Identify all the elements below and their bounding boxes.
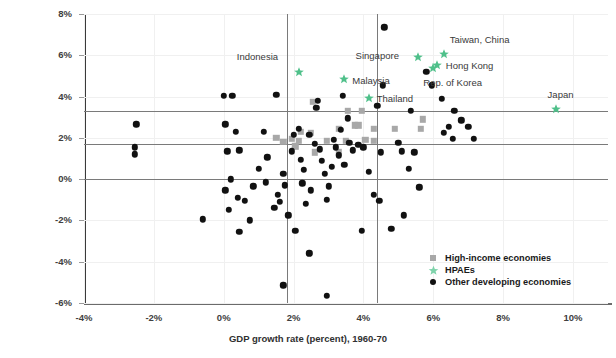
gridline-vertical bbox=[154, 14, 155, 303]
data-point-circle bbox=[222, 187, 228, 193]
data-point-circle bbox=[236, 229, 242, 235]
point-label: Singapore bbox=[356, 51, 399, 61]
data-point-circle bbox=[296, 125, 302, 131]
data-point-circle bbox=[388, 225, 394, 231]
legend-item-hpaes: HPAEs bbox=[426, 264, 571, 276]
point-label: Taiwan, China bbox=[450, 35, 510, 45]
point-label: Japan bbox=[548, 90, 574, 100]
gridline-horizontal bbox=[84, 14, 608, 15]
data-point-circle bbox=[292, 228, 298, 234]
data-point-circle bbox=[325, 183, 331, 189]
data-point-square bbox=[355, 122, 361, 128]
gridline-horizontal bbox=[84, 303, 608, 304]
data-point-circle bbox=[400, 212, 406, 218]
point-label: Rep. of Korea bbox=[423, 78, 482, 88]
data-point-circle bbox=[376, 198, 382, 204]
data-point-star bbox=[339, 74, 350, 85]
data-point-circle bbox=[360, 144, 366, 150]
x-tick-label: 0% bbox=[217, 313, 231, 323]
data-point-circle bbox=[303, 201, 309, 207]
data-point-circle bbox=[374, 103, 380, 109]
x-tick-label: -4% bbox=[76, 313, 93, 323]
x-tick-label: -2% bbox=[145, 313, 162, 323]
data-point-circle bbox=[306, 250, 312, 256]
gridline-vertical bbox=[573, 14, 574, 303]
data-point-circle bbox=[306, 132, 312, 138]
data-point-square bbox=[392, 125, 398, 131]
data-point-circle bbox=[271, 205, 277, 211]
data-point-circle bbox=[458, 117, 464, 123]
data-point-circle bbox=[236, 147, 242, 153]
data-point-circle bbox=[318, 157, 324, 163]
data-point-circle bbox=[470, 136, 476, 142]
data-point-circle bbox=[233, 128, 239, 134]
data-point-circle bbox=[378, 149, 384, 155]
data-point-circle bbox=[399, 148, 405, 154]
data-point-square bbox=[371, 125, 377, 131]
legend-label: Other developing economies bbox=[445, 277, 571, 287]
data-point-circle bbox=[221, 92, 227, 98]
data-point-star bbox=[550, 103, 561, 114]
scatter-chart: 8%6%4%2%0%-2%-4%-6% -4%-2%0%2%4%6%8%10% … bbox=[0, 0, 616, 358]
data-point-circle bbox=[381, 24, 387, 30]
data-point-square bbox=[280, 139, 286, 145]
data-point-circle bbox=[406, 166, 412, 172]
data-point-circle bbox=[423, 69, 429, 75]
data-point-circle bbox=[313, 105, 319, 111]
data-point-square bbox=[324, 138, 330, 144]
gridline-horizontal bbox=[84, 55, 608, 56]
data-point-circle bbox=[449, 136, 455, 142]
data-point-circle bbox=[255, 166, 261, 172]
data-point-star bbox=[363, 92, 374, 103]
chart-legend: High-income economies HPAEs Other develo… bbox=[426, 252, 571, 288]
gridline-vertical bbox=[84, 14, 85, 303]
data-point-circle bbox=[224, 148, 230, 154]
data-point-circle bbox=[366, 169, 372, 175]
x-tick-label: 10% bbox=[564, 313, 583, 323]
data-point-circle bbox=[359, 228, 365, 234]
point-label: Indonesia bbox=[237, 52, 278, 62]
data-point-circle bbox=[315, 97, 321, 103]
data-point-circle bbox=[346, 140, 352, 146]
data-point-circle bbox=[439, 95, 445, 101]
data-point-circle bbox=[416, 184, 422, 190]
data-point-circle bbox=[275, 191, 281, 197]
star-icon bbox=[426, 265, 440, 276]
data-point-circle bbox=[332, 144, 338, 150]
data-point-circle bbox=[131, 144, 137, 150]
data-point-circle bbox=[324, 197, 330, 203]
point-label: Hong Kong bbox=[446, 61, 494, 71]
data-point-square bbox=[420, 116, 426, 122]
data-point-circle bbox=[441, 129, 447, 135]
data-point-circle bbox=[133, 121, 139, 127]
data-point-circle bbox=[308, 187, 314, 193]
data-point-circle bbox=[290, 132, 296, 138]
data-point-circle bbox=[324, 293, 330, 299]
legend-label: High-income economies bbox=[445, 253, 551, 263]
square-icon bbox=[426, 255, 440, 261]
data-point-circle bbox=[247, 217, 253, 223]
data-point-circle bbox=[411, 149, 417, 155]
data-point-circle bbox=[200, 216, 206, 222]
data-point-circle bbox=[289, 148, 295, 154]
x-tick-label: 2% bbox=[287, 313, 301, 323]
x-axis-title: GDP growth rate (percent), 1960-70 bbox=[0, 333, 616, 344]
data-point-circle bbox=[280, 282, 286, 288]
data-point-circle bbox=[301, 167, 307, 173]
data-point-circle bbox=[241, 198, 247, 204]
data-point-square bbox=[273, 135, 279, 141]
data-point-circle bbox=[317, 146, 323, 152]
x-tick-label: 6% bbox=[426, 313, 440, 323]
legend-item-high-income: High-income economies bbox=[426, 252, 571, 264]
data-point-circle bbox=[329, 164, 335, 170]
data-point-circle bbox=[345, 115, 351, 121]
data-point-circle bbox=[280, 171, 286, 177]
data-point-circle bbox=[229, 92, 235, 98]
legend-item-other-developing: Other developing economies bbox=[426, 276, 571, 288]
data-point-square bbox=[418, 125, 424, 131]
gridline-vertical bbox=[224, 14, 225, 303]
data-point-square bbox=[359, 108, 365, 114]
data-point-circle bbox=[131, 151, 137, 157]
data-point-circle bbox=[250, 183, 256, 189]
data-point-circle bbox=[235, 195, 241, 201]
